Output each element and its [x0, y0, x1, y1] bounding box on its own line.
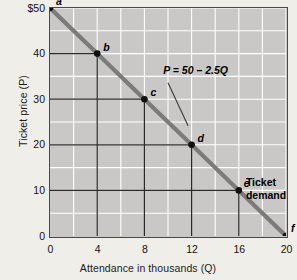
demand-curve-label-line2: demand [246, 189, 286, 202]
plot-inner: abcdefP = 50 – 2.5QTicketdemand [50, 8, 287, 237]
point-label-d: d [198, 132, 204, 144]
figure: Ticket price (P) 010203040$50 abcdefP = … [0, 0, 296, 280]
point-label-b: b [103, 41, 109, 53]
x-tick-label-20: 20 [272, 243, 297, 255]
x-tick-label-8: 8 [130, 243, 160, 255]
y-axis-tick-labels: 010203040$50 [0, 0, 45, 280]
data-point-d [188, 142, 195, 149]
y-tick-label-10: 10 [3, 184, 45, 196]
y-tick-label-30: 30 [3, 93, 45, 105]
equation-label: P = 50 – 2.5Q [163, 64, 228, 76]
data-point-c [141, 96, 148, 103]
demand-curve-label-line1: Ticket [246, 176, 286, 189]
chart-svg [50, 8, 286, 236]
y-tick-label-0: 0 [3, 230, 45, 242]
point-label-c: c [150, 86, 156, 98]
x-tick-label-12: 12 [177, 243, 207, 255]
x-axis-title: Attendance in thousands (Q) [0, 262, 296, 274]
x-tick-label-16: 16 [224, 243, 254, 255]
point-label-f: f [291, 222, 295, 234]
y-tick-label-20: 20 [3, 138, 45, 150]
y-tick-label-40: 40 [3, 47, 45, 59]
plot-area: abcdefP = 50 – 2.5QTicketdemand [49, 7, 288, 238]
point-label-a: a [56, 0, 62, 7]
data-point-b [94, 50, 101, 57]
demand-curve-label: Ticketdemand [246, 176, 286, 201]
equation-leader-line [168, 83, 188, 126]
x-tick-label-0: 0 [36, 243, 66, 255]
data-point-e [236, 187, 243, 194]
x-tick-label-4: 4 [83, 243, 113, 255]
y-tick-label-50: $50 [3, 2, 45, 14]
